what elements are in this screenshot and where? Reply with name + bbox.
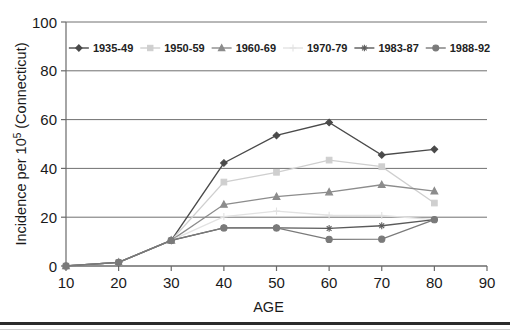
x-tick-label-90: 90	[479, 274, 496, 291]
data-point-1950-59-x40	[221, 179, 227, 185]
y-tick-label-60: 60	[40, 111, 57, 128]
data-point-1988-92-x80	[431, 217, 437, 223]
legend-label-1935-49: 1935-49	[93, 42, 133, 54]
footer-divider	[0, 322, 510, 325]
x-tick-label-20: 20	[110, 274, 127, 291]
data-point-1988-92-x60	[326, 236, 332, 242]
data-point-1988-92-x10	[63, 263, 69, 269]
footer-divider-light	[0, 329, 510, 330]
x-tick-label-30: 30	[163, 274, 180, 291]
y-axis-title-suffix: (Connecticut)	[13, 42, 29, 132]
y-tick-label-100: 100	[32, 14, 57, 31]
legend-marker-1950-59	[148, 45, 153, 50]
data-point-1950-59-x50	[274, 170, 280, 176]
chart-figure: 020406080100 102030405060708090 1935-491…	[0, 0, 510, 333]
y-tick-label-80: 80	[40, 62, 57, 79]
y-axis-title-base: Incidence per 10	[13, 138, 29, 245]
y-tick-label-20: 20	[40, 209, 57, 226]
legend-label-1988-92: 1988-92	[450, 42, 490, 54]
y-tick-label-40: 40	[40, 160, 57, 177]
x-tick-label-50: 50	[268, 274, 285, 291]
data-point-1950-59-x70	[379, 164, 385, 170]
legend-label-1970-79: 1970-79	[307, 42, 347, 54]
data-point-1950-59-x60	[326, 157, 332, 163]
x-tick-label-70: 70	[373, 274, 390, 291]
legend-label-1950-59: 1950-59	[164, 42, 204, 54]
legend-marker-1988-92	[433, 45, 439, 51]
x-tick-label-60: 60	[321, 274, 338, 291]
data-point-1950-59-x80	[432, 200, 438, 206]
y-tick-label-0: 0	[49, 258, 57, 275]
incidence-by-age-line-chart: 020406080100 102030405060708090 1935-491…	[0, 0, 510, 333]
data-point-1988-92-x40	[221, 225, 227, 231]
x-axis-title: AGE	[253, 299, 284, 315]
data-point-1988-92-x50	[273, 225, 279, 231]
data-point-1988-92-x20	[116, 259, 122, 265]
x-tick-label-40: 40	[216, 274, 233, 291]
legend-label-1983-87: 1983-87	[378, 42, 418, 54]
y-axis-title: Incidence per 105 (Connecticut)	[12, 42, 30, 245]
x-tick-label-10: 10	[58, 274, 75, 291]
legend-label-1960-69: 1960-69	[236, 42, 276, 54]
data-point-1988-92-x70	[379, 236, 385, 242]
data-point-1988-92-x30	[168, 237, 174, 243]
x-tick-label-80: 80	[426, 274, 443, 291]
